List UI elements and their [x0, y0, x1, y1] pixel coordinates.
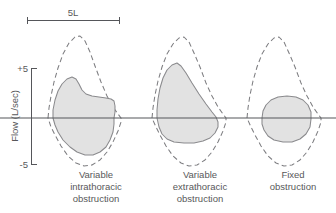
panel-label-line: Fixed	[281, 169, 304, 180]
loop-panel-variable-extrathoracic	[152, 37, 226, 166]
panel-label-line: obstruction	[73, 193, 119, 204]
panel-label-line: extrathoracic	[173, 181, 228, 192]
y-axis: +5 -5 Flow (L/sec)	[9, 63, 37, 170]
panel-label-line: intrathoracic	[70, 181, 122, 192]
loop-curves-group	[48, 36, 321, 166]
y-axis-title: Flow (L/sec)	[9, 90, 20, 142]
abnormal-loop-variable-extrathoracic	[157, 63, 218, 143]
panel-label-line: obstruction	[270, 181, 316, 192]
loop-panel-variable-intrathoracic	[48, 36, 121, 166]
panel-label-line: obstruction	[177, 193, 223, 204]
panel-label-fixed: Fixedobstruction	[270, 169, 316, 192]
abnormal-loop-variable-intrathoracic	[53, 77, 115, 155]
panel-labels-group: VariableintrathoracicobstructionVariable…	[70, 169, 316, 204]
panel-label-variable-intrathoracic: Variableintrathoracicobstruction	[70, 169, 122, 204]
scale-bar-label: 5L	[68, 7, 79, 18]
panel-label-line: Variable	[183, 169, 217, 180]
scale-bar: 5L	[27, 7, 119, 24]
loop-panel-fixed	[247, 37, 321, 166]
abnormal-loop-fixed	[262, 96, 311, 142]
flow-volume-loop-figure: 5L +5 -5 Flow (L/sec) Variableintrathora…	[0, 0, 336, 213]
panel-label-line: Variable	[79, 169, 113, 180]
figure-canvas: 5L +5 -5 Flow (L/sec) Variableintrathora…	[0, 0, 336, 213]
y-axis-label-minus5: -5	[20, 159, 28, 170]
y-axis-label-plus5: +5	[17, 63, 28, 74]
panel-label-variable-extrathoracic: Variableextrathoracicobstruction	[173, 169, 228, 204]
